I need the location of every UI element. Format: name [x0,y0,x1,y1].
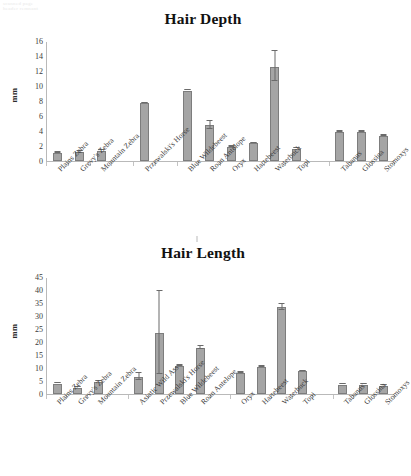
bar-slot [329,42,351,161]
category-gap-slot [312,278,332,394]
bar-slot [372,42,394,161]
x-axis-category-labels-hair-depth: Plains ZebraGrevy's ZebraMountain ZebraP… [46,167,394,237]
bar-slot [134,42,156,161]
y-tick-label: 0 [39,158,43,166]
bar-slot [353,278,373,394]
bar-slot [333,278,353,394]
y-tick-label: 12 [35,68,43,76]
x-tick [333,395,334,399]
error-bar [144,102,145,104]
error-bar [261,365,262,367]
bar[interactable] [338,385,347,394]
error-bar [361,130,362,132]
error-bar [274,50,275,82]
bar-slot [47,278,67,394]
error-bar [138,372,139,380]
y-tick-label: 14 [35,53,43,61]
error-bar [302,370,303,371]
y-tick-label: 40 [35,287,43,295]
y-tick-label: 20 [35,339,43,347]
bar-slot [351,42,373,161]
error-bar [240,371,241,373]
error-bar [57,382,58,384]
error-bar [187,89,188,91]
y-axis-tick-labels-hair-length: 051015202530354045 [17,278,43,395]
y-axis-tick-labels-hair-depth: 0246810121416 [17,42,43,162]
chart-title-hair-depth: Hair Depth [0,10,406,30]
bar-slot [242,42,264,161]
y-tick-label: 2 [39,143,43,151]
error-bar [209,120,210,128]
y-tick-label: 0 [39,391,43,399]
y-tick-label: 15 [35,352,43,360]
x-tick [133,162,134,166]
page-fold-mark [196,236,198,242]
y-tick-label: 10 [35,365,43,373]
y-tick-label: 25 [35,326,43,334]
category-gap-slot [307,42,329,161]
x-tick [329,162,330,166]
bar[interactable] [257,367,266,394]
bar-slot [47,42,69,161]
x-tick [46,395,47,399]
y-tick-label: 10 [35,83,43,91]
bar[interactable] [134,377,143,394]
error-bar [159,290,160,373]
y-tick-label: 35 [35,300,43,308]
y-tick-label: 6 [39,113,43,121]
bar[interactable] [249,143,258,161]
chart-hair-length: Hair Length mm 051015202530354045 Plains… [0,244,406,476]
bar-slot [251,278,271,394]
y-tick-label: 4 [39,128,43,136]
y-tick-label: 45 [35,274,43,282]
bar[interactable] [236,373,245,394]
error-bar [339,130,340,132]
y-tick-label: 5 [39,378,43,386]
bar[interactable] [53,384,62,394]
x-tick [177,162,178,166]
x-tick [230,395,231,399]
bar[interactable] [53,153,62,161]
chart-title-hair-length: Hair Length [0,244,406,264]
bar-slot [177,42,199,161]
bar-slot [374,278,394,394]
error-bar [200,345,201,349]
bar[interactable] [335,132,344,161]
x-tick [46,162,47,166]
error-bar [179,364,180,367]
error-bar [253,142,254,144]
error-bar [281,303,282,310]
error-bar [383,134,384,136]
chart-hair-depth: Hair Depth mm 0246810121416 Plains Zebra… [0,10,406,232]
y-tick-label: 8 [39,98,43,106]
x-tick [128,395,129,399]
error-bar [57,151,58,153]
bar[interactable] [140,103,149,161]
y-tick-label: 30 [35,313,43,321]
x-axis-category-labels-hair-length: Plains ZebraGrevy's ZebraMountain ZebraA… [46,400,394,470]
y-tick-label: 16 [35,38,43,46]
error-bar [342,383,343,384]
